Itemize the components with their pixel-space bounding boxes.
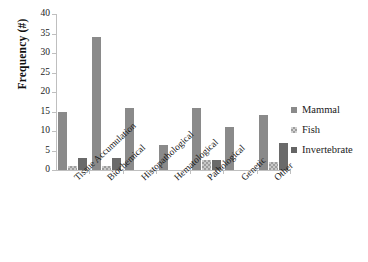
bar-chart: Frequency (#) 4035302520151050 Tissue Ac… bbox=[0, 0, 368, 262]
y-tick-mark bbox=[52, 73, 56, 74]
bar-fish bbox=[269, 162, 278, 170]
legend-item: Fish bbox=[291, 125, 368, 135]
y-tick-label: 0 bbox=[45, 165, 50, 175]
bar-fish bbox=[68, 166, 77, 170]
legend-item: Invertebrate bbox=[291, 145, 368, 155]
y-tick-mark bbox=[52, 34, 56, 35]
y-tick-mark bbox=[52, 112, 56, 113]
legend-label: Fish bbox=[302, 125, 320, 136]
legend-swatch-icon bbox=[291, 127, 297, 133]
legend-swatch-icon bbox=[291, 147, 297, 153]
y-tick-label: 35 bbox=[41, 29, 51, 39]
legend-label: Mammal bbox=[302, 105, 340, 116]
legend-swatch-icon bbox=[291, 107, 297, 113]
y-tick-label: 25 bbox=[41, 68, 51, 78]
y-tick-label: 15 bbox=[41, 107, 51, 117]
y-tick-mark bbox=[52, 92, 56, 93]
bar-fish bbox=[202, 160, 211, 170]
y-tick-label: 30 bbox=[41, 48, 51, 58]
y-tick-mark bbox=[52, 14, 56, 15]
y-tick-mark bbox=[52, 53, 56, 54]
y-tick-label: 5 bbox=[45, 146, 50, 156]
y-axis-title: Frequency (#) bbox=[16, 0, 28, 124]
legend-label: Invertebrate bbox=[302, 145, 353, 156]
bar-mammal bbox=[58, 112, 67, 171]
y-tick-label: 40 bbox=[41, 9, 51, 19]
legend-item: Mammal bbox=[291, 105, 368, 115]
y-tick-mark bbox=[52, 170, 56, 171]
y-tick-label: 10 bbox=[41, 126, 51, 136]
chart-legend: MammalFishInvertebrate bbox=[291, 105, 368, 165]
y-tick-mark bbox=[52, 131, 56, 132]
bar-fish bbox=[102, 166, 111, 170]
y-tick-label: 20 bbox=[41, 87, 51, 97]
y-tick-mark bbox=[52, 151, 56, 152]
